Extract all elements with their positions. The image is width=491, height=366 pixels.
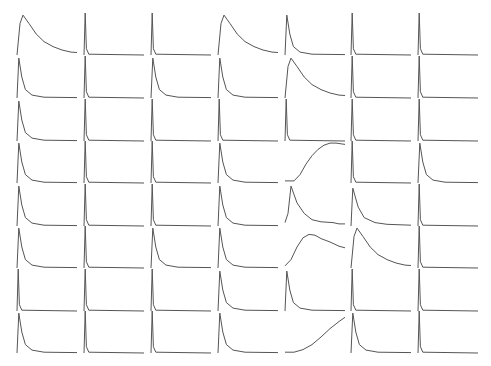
plot-panel xyxy=(151,141,211,183)
plot-panel xyxy=(151,99,211,141)
series-line xyxy=(17,143,77,183)
plot-panel xyxy=(285,317,345,352)
series-line xyxy=(285,271,345,311)
series-line xyxy=(218,58,278,98)
series-line xyxy=(418,226,478,268)
series-line xyxy=(218,313,278,353)
series-line xyxy=(84,184,144,226)
plot-panel xyxy=(351,13,411,55)
series-line xyxy=(84,311,144,353)
plot-panel xyxy=(351,99,411,141)
series-line xyxy=(17,269,77,311)
series-line xyxy=(285,234,345,266)
small-multiples-grid xyxy=(0,0,491,366)
series-line xyxy=(84,141,144,183)
plot-panel xyxy=(351,313,411,353)
plot-panel xyxy=(218,228,278,268)
plot-panel xyxy=(84,56,144,98)
plot-panel xyxy=(84,311,144,353)
series-line xyxy=(418,56,478,98)
plot-panel xyxy=(84,13,144,55)
plot-panel xyxy=(218,186,278,226)
series-line xyxy=(418,269,478,311)
plot-panel xyxy=(418,99,478,141)
plot-panel xyxy=(17,143,77,183)
plot-panel xyxy=(151,228,211,268)
plot-panel xyxy=(418,56,478,98)
series-line xyxy=(17,186,77,226)
series-line xyxy=(218,228,278,268)
series-line xyxy=(218,99,278,141)
plot-panel xyxy=(351,188,411,226)
series-line xyxy=(285,186,345,224)
series-line xyxy=(418,99,478,141)
series-line xyxy=(218,143,278,183)
series-line xyxy=(17,228,77,268)
plot-panel xyxy=(151,269,211,311)
plot-panel xyxy=(285,271,345,311)
series-line xyxy=(285,58,345,98)
series-line xyxy=(218,271,278,311)
series-line xyxy=(351,141,411,183)
plot-panel xyxy=(285,58,345,98)
series-line xyxy=(17,101,77,141)
series-line xyxy=(84,99,144,141)
plot-panel xyxy=(285,234,345,266)
plot-panel xyxy=(151,184,211,226)
plot-panel xyxy=(84,141,144,183)
series-line xyxy=(351,188,411,226)
series-line xyxy=(84,269,144,311)
series-line xyxy=(351,56,411,98)
plot-panel xyxy=(151,311,211,353)
plot-panel xyxy=(351,228,411,268)
plot-panel xyxy=(285,15,345,55)
series-line xyxy=(151,311,211,353)
plot-panel xyxy=(218,271,278,311)
plot-panel xyxy=(418,226,478,268)
plot-panel xyxy=(351,56,411,98)
plot-panel xyxy=(285,143,345,181)
series-line xyxy=(351,313,411,353)
plot-panel xyxy=(17,15,77,55)
series-line xyxy=(418,184,478,226)
series-line xyxy=(285,15,345,55)
plot-panel xyxy=(84,184,144,226)
plot-panel xyxy=(351,141,411,183)
series-line xyxy=(351,13,411,55)
series-line xyxy=(351,269,411,311)
series-line xyxy=(285,143,345,181)
series-line xyxy=(151,228,211,268)
series-line xyxy=(418,13,478,55)
plot-panel xyxy=(17,58,77,98)
series-line xyxy=(351,228,411,268)
plot-panel xyxy=(17,186,77,226)
plot-panel xyxy=(84,99,144,141)
series-line xyxy=(151,184,211,226)
series-line xyxy=(17,313,77,353)
plot-panel xyxy=(418,184,478,226)
plot-panel xyxy=(151,58,211,98)
plot-panel xyxy=(218,99,278,141)
plot-panel xyxy=(418,311,478,353)
series-line xyxy=(17,15,77,55)
series-line xyxy=(418,143,478,183)
plot-panel xyxy=(17,269,77,311)
plot-panel xyxy=(218,15,278,55)
chart-canvas xyxy=(0,0,491,366)
series-line xyxy=(151,141,211,183)
series-line xyxy=(151,58,211,98)
series-line xyxy=(151,99,211,141)
series-line xyxy=(84,56,144,98)
series-line xyxy=(151,13,211,55)
series-line xyxy=(218,15,278,55)
plot-panel xyxy=(351,269,411,311)
plot-panel xyxy=(17,313,77,353)
series-line xyxy=(285,99,345,141)
series-line xyxy=(418,311,478,353)
plot-panel xyxy=(285,99,345,141)
plot-panel xyxy=(218,313,278,353)
plot-panel xyxy=(84,269,144,311)
plot-panel xyxy=(84,226,144,268)
plot-panel xyxy=(418,13,478,55)
plot-panel xyxy=(418,269,478,311)
